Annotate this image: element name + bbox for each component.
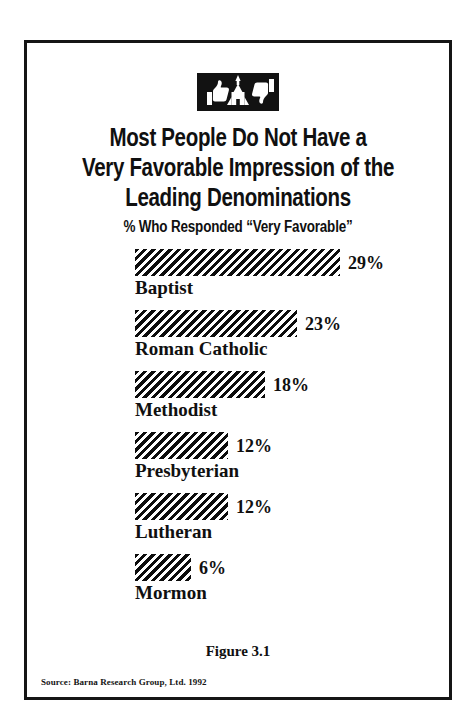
bar-row: 23%	[27, 310, 341, 337]
bar-value-baptist: 29%	[348, 254, 384, 272]
bar-row: 6%	[27, 554, 226, 581]
figure-title-line-2: Very Favorable Impression of the	[75, 155, 401, 180]
bar-value-lutheran: 12%	[236, 498, 272, 516]
bar-group-roman-catholic: 23% Roman Catholic	[27, 310, 449, 371]
source-note: Source: Barna Research Group, Ltd. 1992	[41, 677, 207, 687]
bar-mormon	[135, 554, 191, 581]
bar-lutheran	[135, 493, 228, 520]
bar-row: 12%	[27, 432, 272, 459]
figure-content: Most People Do Not Have a Very Favorable…	[27, 43, 449, 697]
bar-row: 29%	[27, 249, 384, 276]
bar-row: 12%	[27, 493, 272, 520]
bar-group-methodist: 18% Methodist	[27, 371, 449, 432]
bar-row: 18%	[27, 371, 309, 398]
figure-title-line-3: Leading Denominations	[75, 185, 401, 210]
bar-label-mormon: Mormon	[135, 582, 207, 604]
figure-subtitle: % Who Responded “Very Favorable”	[71, 219, 405, 235]
bar-group-baptist: 29% Baptist	[27, 249, 449, 310]
figure-title-line-1: Most People Do Not Have a	[75, 125, 401, 150]
bar-group-lutheran: 12% Lutheran	[27, 493, 449, 554]
bar-presbyterian	[135, 432, 228, 459]
bar-label-roman-catholic: Roman Catholic	[135, 338, 267, 360]
bar-group-mormon: 6% Mormon	[27, 554, 449, 615]
bar-label-lutheran: Lutheran	[135, 521, 212, 543]
bar-value-presbyterian: 12%	[236, 437, 272, 455]
bar-value-mormon: 6%	[199, 559, 226, 577]
bar-roman-catholic	[135, 310, 297, 337]
bar-label-methodist: Methodist	[135, 399, 217, 421]
figure-logo	[27, 73, 449, 111]
thumbs-up-church-thumbs-down-icon	[197, 73, 279, 111]
figure-caption: Figure 3.1	[27, 643, 449, 660]
bar-group-presbyterian: 12% Presbyterian	[27, 432, 449, 493]
bar-value-methodist: 18%	[273, 376, 309, 394]
bar-value-roman-catholic: 23%	[305, 315, 341, 333]
bar-chart-plot: 29% Baptist 23% Roman Catholic 18% Metho…	[27, 249, 449, 629]
bar-label-baptist: Baptist	[135, 277, 193, 299]
bar-methodist	[135, 371, 265, 398]
bar-label-presbyterian: Presbyterian	[135, 460, 239, 482]
bar-baptist	[135, 249, 340, 276]
figure-frame: Most People Do Not Have a Very Favorable…	[24, 40, 452, 700]
